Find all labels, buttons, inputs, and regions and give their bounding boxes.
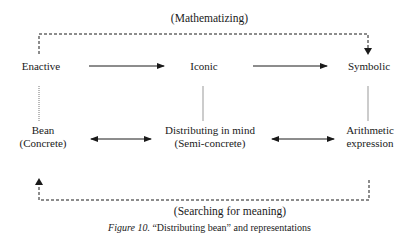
figure-caption: Figure 10. “Distributing bean” and repre… (0, 222, 419, 234)
node-symbolic: Symbolic (339, 60, 399, 73)
mathematizing-label: (Mathematizing) (0, 12, 419, 25)
figure-number: Figure 10. (108, 222, 150, 233)
diagram-connectors (0, 0, 419, 239)
mathematizing-dashed-arrow (39, 34, 372, 55)
node-bean-line1: Bean (10, 124, 76, 137)
figure-caption-text: “Distributing bean” and representations (150, 222, 311, 233)
node-bean-line2: (Concrete) (10, 137, 76, 150)
node-distributing-line2: (Semi-concrete) (150, 137, 270, 150)
node-arithmetic-line1: Arithmetic (336, 124, 404, 137)
node-iconic: Iconic (180, 60, 228, 73)
searching-dashed-arrow (35, 178, 369, 200)
node-enactive: Enactive (16, 60, 66, 73)
node-bean-concrete: Bean (Concrete) (10, 124, 76, 150)
node-arithmetic-expression: Arithmetic expression (336, 124, 404, 150)
node-distributing-line1: Distributing in mind (150, 124, 270, 137)
node-arithmetic-line2: expression (336, 137, 404, 150)
searching-for-meaning-label: (Searching for meaning) (0, 205, 419, 218)
node-distributing-in-mind: Distributing in mind (Semi-concrete) (150, 124, 270, 150)
